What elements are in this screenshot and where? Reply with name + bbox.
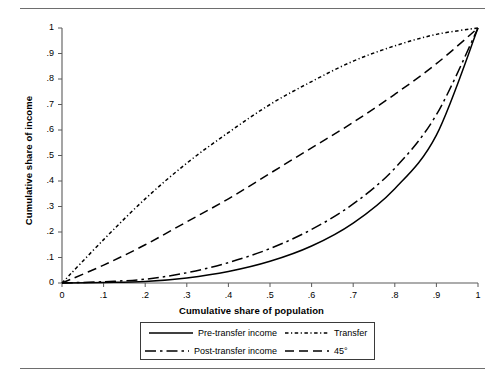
y-tick-label: 1	[30, 22, 54, 32]
y-tick-label: .9	[30, 48, 54, 58]
y-tick-label: .1	[30, 252, 54, 262]
legend-line-swatch-solid	[149, 328, 193, 338]
y-tick-label: .7	[30, 99, 54, 109]
curve-45	[62, 28, 478, 283]
legend-line-swatch-dashed	[285, 346, 329, 356]
x-tick-label: .4	[216, 290, 240, 300]
legend-label: Transfer	[334, 328, 367, 338]
legend-row: Post-transfer income 45°	[141, 341, 374, 360]
legend-label: 45°	[334, 346, 348, 356]
legend-item-post-transfer-income[interactable]: Post-transfer income	[145, 341, 277, 360]
x-tick-label: .9	[424, 290, 448, 300]
y-tick-label: .2	[30, 226, 54, 236]
y-tick-label: 0	[30, 277, 54, 287]
y-tick-label: .3	[30, 201, 54, 211]
x-tick-label: .5	[258, 290, 282, 300]
y-axis-title: Cumulative share of income	[23, 61, 34, 261]
curve-transfer	[62, 28, 478, 283]
legend-line-swatch-dash-dot-dotted	[285, 328, 329, 338]
legend-item-pre-transfer-income[interactable]: Pre-transfer income	[149, 323, 277, 342]
x-tick-label: .3	[175, 290, 199, 300]
figure-container: 0.1.2.3.4.5.6.7.8.91 0.1.2.3.4.5.6.7.8.9…	[0, 0, 503, 386]
curve-pre-transfer-income	[62, 28, 478, 283]
axis-ticks	[58, 28, 478, 287]
x-axis-title: Cumulative share of population	[0, 305, 503, 316]
data-curves	[62, 28, 478, 283]
legend-label: Pre-transfer income	[198, 328, 277, 338]
x-tick-label: .8	[383, 290, 407, 300]
x-tick-label: .2	[133, 290, 157, 300]
y-tick-label: .4	[30, 175, 54, 185]
x-tick-label: .7	[341, 290, 365, 300]
x-tick-label: 0	[50, 290, 74, 300]
curve-post-transfer-income	[62, 28, 478, 283]
legend-row: Pre-transfer income Transfer	[141, 323, 374, 342]
axis-lines	[62, 28, 478, 283]
legend-line-swatch-dash-dot	[145, 346, 189, 356]
y-tick-label: .8	[30, 73, 54, 83]
legend-item-transfer[interactable]: Transfer	[285, 323, 367, 342]
y-tick-label: .5	[30, 150, 54, 160]
x-tick-label: .1	[92, 290, 116, 300]
legend-item-45-degree-line[interactable]: 45°	[285, 341, 348, 360]
legend: Pre-transfer income Transfer Post-transf…	[140, 322, 375, 360]
legend-label: Post-transfer income	[194, 346, 277, 356]
x-tick-label: 1	[466, 290, 490, 300]
y-tick-label: .6	[30, 124, 54, 134]
x-tick-label: .6	[300, 290, 324, 300]
